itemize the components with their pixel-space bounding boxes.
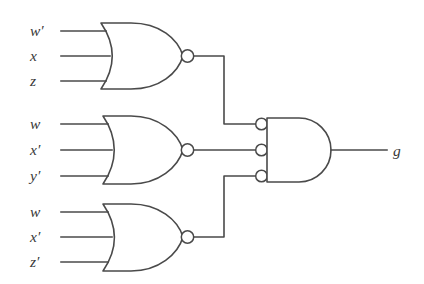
label-input-top-3: z	[29, 72, 36, 89]
label-input-bottom-3: z′	[29, 253, 40, 270]
logic-circuit-diagram: w′ x z w x′ y′ w x′ z′ g	[0, 0, 424, 284]
nor-gate-middle-body	[103, 116, 183, 184]
nor-gate-top	[101, 23, 194, 89]
nor-gate-top-body	[101, 23, 183, 89]
nor-gate-bottom-body	[103, 204, 183, 271]
nor-gate-bottom	[103, 204, 194, 271]
nor-gate-middle-output-bubble	[181, 144, 193, 156]
wire-top-nor-to-and-input-1	[194, 56, 256, 124]
label-input-middle-2: x′	[29, 141, 41, 158]
wire-bottom-nor-to-and-input-3	[194, 176, 256, 237]
label-input-bottom-2: x′	[29, 228, 41, 245]
circuit-svg-canvas: w′ x z w x′ y′ w x′ z′ g	[0, 0, 424, 284]
label-input-top-2: x	[29, 47, 37, 64]
label-input-top-1: w′	[30, 22, 44, 39]
label-output-g: g	[393, 142, 401, 159]
nor-gate-middle	[103, 116, 194, 184]
nor-gate-bottom-output-bubble	[181, 231, 193, 243]
label-input-middle-1: w	[30, 115, 41, 132]
label-input-middle-3: y′	[28, 167, 41, 184]
nor-gate-top-output-bubble	[181, 50, 193, 62]
and-gate-body	[267, 118, 331, 182]
and-gate-input-bubble-2	[256, 144, 268, 156]
and-gate-input-bubble-3	[256, 170, 268, 182]
label-input-bottom-1: w	[30, 203, 41, 220]
and-gate-output	[256, 118, 331, 182]
and-gate-input-bubble-1	[256, 118, 268, 130]
